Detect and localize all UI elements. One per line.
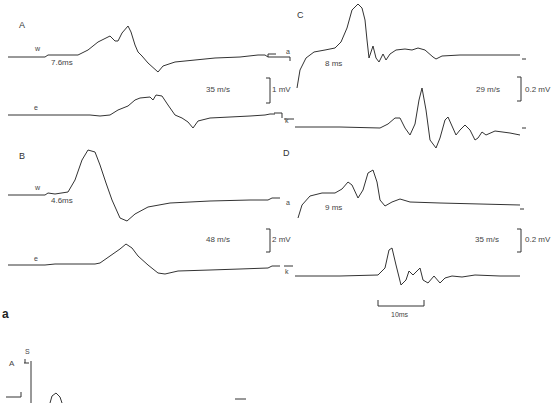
trace-B-e bbox=[8, 244, 280, 274]
latency-B: 4.6ms bbox=[51, 197, 73, 205]
trace-C-a bbox=[297, 4, 520, 88]
panel-label-D: D bbox=[283, 149, 290, 158]
panel-label-B: B bbox=[19, 152, 25, 161]
scale-bar-D bbox=[517, 229, 521, 252]
panel-label-A: A bbox=[19, 21, 25, 30]
amplitude-scale-B: 2 mV bbox=[272, 236, 291, 244]
trace-label-C-bottom: k bbox=[285, 117, 289, 124]
trace-C-k bbox=[295, 88, 520, 148]
trace-label-A-bottom: e bbox=[34, 104, 38, 111]
panel-label-C: C bbox=[297, 11, 304, 20]
scale-bar-C bbox=[517, 77, 521, 101]
amplitude-scale-D: 0.2 mV bbox=[525, 236, 550, 244]
figure-panel-label: a bbox=[2, 308, 9, 320]
velocity-C: 29 m/s bbox=[476, 86, 500, 94]
lower-trace-stim bbox=[24, 359, 29, 363]
trace-A-w bbox=[8, 26, 275, 72]
velocity-B: 48 m/s bbox=[206, 236, 230, 244]
traces-canvas bbox=[0, 0, 557, 403]
trace-label-B-bottom: e bbox=[34, 255, 38, 262]
lower-trace bbox=[6, 361, 62, 403]
latency-C: 8 ms bbox=[325, 60, 342, 68]
amplitude-scale-C: 0.2 mV bbox=[525, 86, 550, 94]
time-scale-bar bbox=[378, 300, 424, 306]
trace-label-B-top: w bbox=[35, 184, 40, 191]
trace-label-D-bottom: k bbox=[285, 268, 289, 275]
velocity-A: 35 m/s bbox=[206, 86, 230, 94]
latency-A: 7.6ms bbox=[51, 59, 73, 67]
amplitude-scale-A: 1 mV bbox=[272, 86, 291, 94]
scale-bar-A bbox=[266, 78, 270, 103]
velocity-D: 35 m/s bbox=[475, 236, 499, 244]
trace-D-k bbox=[295, 248, 520, 285]
scale-bar-B bbox=[266, 229, 270, 252]
trace-label-D-top: a bbox=[286, 199, 290, 206]
trace-A-e bbox=[8, 95, 275, 128]
stimulus-marker: S bbox=[25, 348, 30, 355]
trace-B-w bbox=[8, 150, 280, 221]
time-scale-label: 10ms bbox=[391, 311, 408, 318]
trace-label-A-top: w bbox=[35, 45, 40, 52]
latency-D: 9 ms bbox=[325, 204, 342, 212]
trace-label-C-top: a bbox=[286, 48, 290, 55]
lower-panel-label: A bbox=[9, 360, 14, 368]
